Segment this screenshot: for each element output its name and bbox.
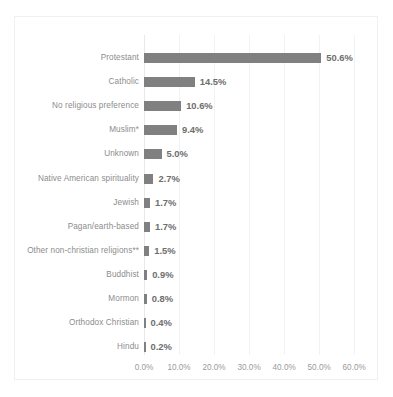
bar — [144, 53, 321, 63]
x-axis-tick-labels: 0.0%10.0%20.0%30.0%40.0%50.0%60.0% — [144, 361, 371, 377]
bar-value-label: 0.2% — [151, 336, 172, 358]
bar-row: Muslim*9.4% — [144, 119, 371, 141]
category-label: No religious preference — [0, 95, 139, 117]
category-label: Orthodox Christian — [0, 312, 139, 334]
bar-value-label: 0.8% — [152, 288, 173, 310]
bar-value-label: 1.5% — [154, 240, 175, 262]
bar — [144, 342, 146, 352]
category-label: Unknown — [0, 143, 139, 165]
bar — [144, 149, 162, 159]
bar-value-label: 1.7% — [155, 192, 176, 214]
category-label: Buddhist — [0, 264, 139, 286]
bar-row: Hindu0.2% — [144, 336, 371, 358]
category-label: Pagan/earth-based — [0, 216, 139, 238]
bar-row: Buddhist0.9% — [144, 264, 371, 286]
bar-value-label: 50.6% — [326, 47, 353, 69]
bar-row: Native American spirituality2.7% — [144, 168, 371, 190]
bar-row: Mormon0.8% — [144, 288, 371, 310]
x-tick-label: 60.0% — [332, 361, 376, 375]
bar-value-label: 14.5% — [200, 71, 227, 93]
bar-row: Other non-christian religions**1.5% — [144, 240, 371, 262]
bar-row: Orthodox Christian0.4% — [144, 312, 371, 334]
bar — [144, 318, 146, 328]
bar — [144, 198, 150, 208]
category-label: Catholic — [0, 71, 139, 93]
bar-value-label: 9.4% — [182, 119, 203, 141]
category-label: Mormon — [0, 288, 139, 310]
category-label: Hindu — [0, 336, 139, 358]
bar-rows: Protestant50.6%Catholic14.5%No religious… — [144, 35, 371, 355]
bar-row: Protestant50.6% — [144, 47, 371, 69]
bar-value-label: 0.4% — [151, 312, 172, 334]
bar — [144, 270, 147, 280]
category-label: Native American spirituality — [0, 168, 139, 190]
category-label: Other non-christian religions** — [0, 240, 139, 262]
bar — [144, 77, 195, 87]
bar-value-label: 10.6% — [186, 95, 213, 117]
bar-row: Catholic14.5% — [144, 71, 371, 93]
bar-value-label: 2.7% — [158, 168, 179, 190]
bar-value-label: 5.0% — [167, 143, 188, 165]
category-label: Jewish — [0, 192, 139, 214]
category-label: Muslim* — [0, 119, 139, 141]
chart-frame: Protestant50.6%Catholic14.5%No religious… — [14, 16, 378, 380]
bar — [144, 101, 181, 111]
category-label: Protestant — [0, 47, 139, 69]
bar — [144, 174, 153, 184]
bar — [144, 125, 177, 135]
bar — [144, 294, 147, 304]
bar-row: No religious preference10.6% — [144, 95, 371, 117]
bar-row: Pagan/earth-based1.7% — [144, 216, 371, 238]
bar-row: Jewish1.7% — [144, 192, 371, 214]
bar — [144, 246, 149, 256]
bar-value-label: 1.7% — [155, 216, 176, 238]
bar — [144, 222, 150, 232]
bar-value-label: 0.9% — [152, 264, 173, 286]
plot-area: Protestant50.6%Catholic14.5%No religious… — [144, 35, 371, 355]
bar-row: Unknown5.0% — [144, 143, 371, 165]
